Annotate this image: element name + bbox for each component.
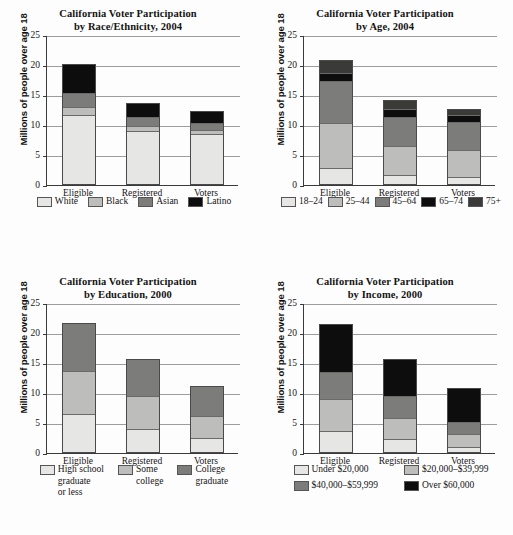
legend-item[interactable]: $20,000–$39,999 (404, 464, 489, 476)
legend-item[interactable]: White (37, 196, 78, 208)
bar-segment[interactable] (127, 118, 159, 127)
legend-label: 75+ (486, 196, 501, 208)
bar-segment[interactable] (448, 435, 480, 448)
legend-item[interactable]: 18–24 (281, 196, 323, 208)
bar-segment[interactable] (127, 430, 159, 452)
axis-tick-mark (43, 126, 47, 127)
bar-segment[interactable] (320, 124, 352, 169)
bar-segment[interactable] (320, 61, 352, 73)
stacked-bar[interactable] (383, 359, 417, 453)
stacked-bar[interactable] (319, 60, 353, 185)
bar-segment[interactable] (191, 387, 223, 417)
bar-segment[interactable] (191, 112, 223, 124)
bar-segment[interactable] (127, 360, 159, 398)
y-tick-label: 20 (277, 60, 297, 70)
bar-segment[interactable] (320, 400, 352, 432)
bar-segment[interactable] (384, 147, 416, 176)
bar-segment[interactable] (63, 415, 95, 452)
legend-item[interactable]: Latino (188, 196, 231, 208)
legend-item[interactable]: High school graduate or less (40, 464, 104, 499)
chart-legend: WhiteBlackAsianLatino (20, 196, 248, 208)
bar-segment[interactable] (448, 389, 480, 423)
bar-segment[interactable] (448, 116, 480, 123)
y-tick-label: 5 (277, 150, 297, 160)
axis-tick-mark (300, 66, 304, 67)
bar-segment[interactable] (384, 360, 416, 396)
bar-segment[interactable] (320, 373, 352, 400)
chart-panel-race-ethnicity: California Voter Participation by Race/E… (0, 0, 256, 267)
stacked-bar[interactable] (62, 323, 96, 453)
bar-segment[interactable] (320, 432, 352, 452)
bar-segment[interactable] (384, 419, 416, 441)
legend-item[interactable]: College graduate (177, 464, 228, 487)
stacked-bar[interactable] (383, 100, 417, 185)
stacked-bar[interactable] (319, 324, 353, 453)
bar-segment[interactable] (384, 101, 416, 110)
axis-tick-mark (43, 36, 47, 37)
y-tick-label: 10 (277, 120, 297, 130)
bar-segment[interactable] (127, 104, 159, 119)
stacked-bar[interactable] (447, 109, 481, 185)
legend-label: Asian (156, 196, 178, 208)
bar-segment[interactable] (320, 169, 352, 184)
legend-item[interactable]: 25–44 (328, 196, 370, 208)
legend-label: Some college (136, 464, 163, 487)
bar-segment[interactable] (191, 135, 223, 184)
legend-item[interactable]: Over $60,000 (404, 480, 489, 492)
bar-segment[interactable] (63, 65, 95, 95)
legend-item[interactable]: Asian (138, 196, 178, 208)
stacked-bar[interactable] (126, 359, 160, 453)
bar-segment[interactable] (320, 74, 352, 83)
y-tick-label: 0 (20, 180, 40, 190)
bar-segment[interactable] (448, 178, 480, 184)
bar-segment[interactable] (320, 82, 352, 124)
bar-segment[interactable] (127, 132, 159, 184)
bar-segment[interactable] (384, 110, 416, 118)
bar-segment[interactable] (191, 439, 223, 452)
bar-segment[interactable] (384, 118, 416, 147)
stacked-bar[interactable] (190, 386, 224, 453)
legend-item[interactable]: 75+ (468, 196, 501, 208)
legend-label: Black (106, 196, 128, 208)
legend-item[interactable]: $40,000–$59,999 (294, 480, 379, 492)
stacked-bar[interactable] (126, 103, 160, 185)
axis-tick-mark (300, 36, 304, 37)
legend-item[interactable]: Under $20,000 (294, 464, 379, 476)
bar-segment[interactable] (448, 448, 480, 452)
legend-label: High school graduate or less (58, 464, 104, 499)
y-tick-label: 5 (20, 150, 40, 160)
stacked-bar[interactable] (62, 64, 96, 185)
bar-segment[interactable] (191, 417, 223, 439)
bar-segment[interactable] (127, 397, 159, 430)
bar-segment[interactable] (384, 397, 416, 419)
axis-tick-mark (300, 364, 304, 365)
chart-panel-education: California Voter Participation by Educat… (0, 268, 256, 535)
bar-segment[interactable] (63, 94, 95, 108)
stacked-bar[interactable] (190, 111, 224, 185)
bar-segment[interactable] (191, 124, 223, 132)
legend-item[interactable]: Black (88, 196, 128, 208)
bar-segment[interactable] (384, 440, 416, 452)
axis-tick-mark (300, 96, 304, 97)
bar-segment[interactable] (320, 325, 352, 373)
axis-tick-mark (300, 454, 304, 455)
legend-label: Latino (206, 196, 231, 208)
stacked-bar[interactable] (447, 388, 481, 453)
bar-segment[interactable] (63, 324, 95, 372)
bar-segment[interactable] (448, 151, 480, 177)
legend-item[interactable]: Some college (118, 464, 163, 487)
bar-segment[interactable] (448, 423, 480, 435)
axis-tick-mark (43, 364, 47, 365)
legend-swatch-icon (40, 465, 55, 475)
bar-segment[interactable] (63, 108, 95, 115)
axis-tick-mark (43, 424, 47, 425)
legend-swatch-icon (88, 197, 103, 207)
axis-tick-mark (300, 304, 304, 305)
bar-segment[interactable] (384, 176, 416, 184)
legend-item[interactable]: 65–74 (421, 196, 463, 208)
legend-item[interactable]: 45–64 (375, 196, 417, 208)
y-tick-label: 25 (20, 30, 40, 40)
bar-segment[interactable] (63, 116, 95, 184)
bar-segment[interactable] (448, 123, 480, 151)
bar-segment[interactable] (63, 372, 95, 415)
